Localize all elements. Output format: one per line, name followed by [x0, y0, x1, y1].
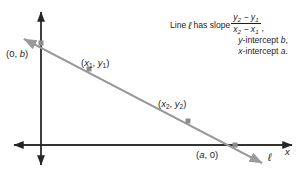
slope-trailing-comma: , — [262, 23, 264, 35]
slope-numerator: y2 − y1 — [231, 12, 260, 23]
x-axis-label: x — [285, 146, 290, 157]
slope-denominator: x2 − x1 — [231, 23, 260, 35]
label-y-intercept-point: (0, b) — [6, 48, 28, 59]
line-graph-figure: (0, b) (x1, y1) (x2, y2) (a, 0) x ℓ Line… — [0, 0, 302, 172]
callout-ell-symbol: ℓ — [186, 17, 193, 31]
point-marker-y-intercept — [39, 41, 44, 46]
point-marker-x-intercept — [233, 143, 238, 148]
callout-line-prefix: Line — [170, 17, 186, 31]
callout-y-intercept: y-intercept b, — [170, 35, 298, 46]
callout-x-intercept: x-intercept a. — [170, 46, 298, 57]
line-ell-label: ℓ — [268, 151, 272, 163]
label-x-intercept-point: (a, 0) — [196, 149, 218, 160]
label-point-2: (x2, y2) — [158, 98, 186, 109]
callout-text-block: Line ℓ has slope y2 − y1 x2 − x1 , y-int… — [170, 12, 298, 57]
point-marker-2 — [186, 119, 191, 124]
slope-fraction: y2 − y1 x2 − x1 — [231, 12, 260, 35]
callout-slope-row: Line ℓ has slope y2 − y1 x2 − x1 , — [170, 12, 298, 35]
callout-has-slope: has slope — [193, 17, 230, 31]
label-point-1: (x1, y1) — [81, 57, 109, 68]
